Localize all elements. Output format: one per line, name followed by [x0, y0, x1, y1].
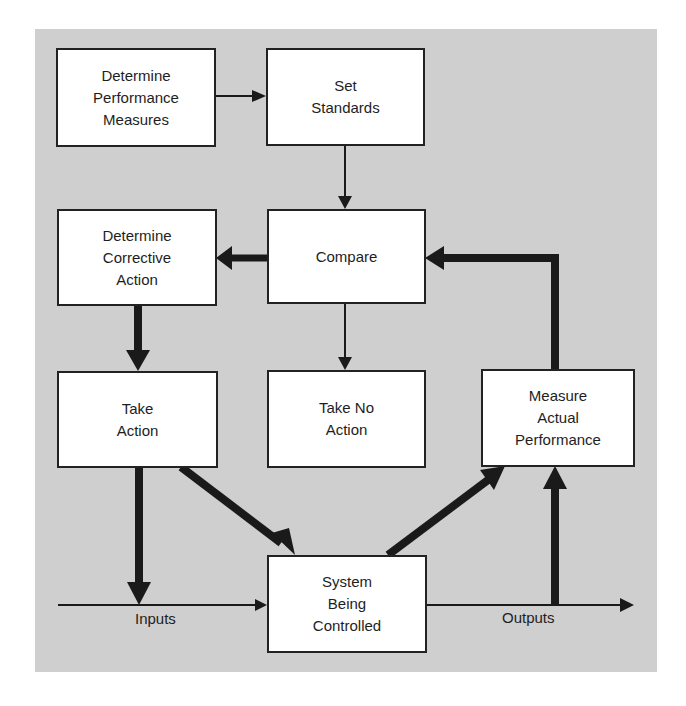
box-take-no-action: Take No Action — [267, 370, 426, 468]
box-set-standards: Set Standards — [266, 48, 425, 146]
arrow-measure-to-compare — [425, 246, 555, 369]
arrow-outputs-to-measure — [543, 466, 567, 605]
box-determine-performance-measures: Determine Performance Measures — [56, 48, 216, 147]
label-outputs: Outputs — [502, 609, 555, 626]
arrow-standards-to-compare — [338, 145, 352, 209]
arrow-system-to-measure — [388, 466, 505, 555]
arrow-measures-to-standards — [215, 90, 266, 102]
arrow-take-action-to-system — [181, 467, 295, 555]
label-inputs: Inputs — [135, 610, 176, 627]
arrow-compare-to-no-action — [338, 303, 352, 370]
box-determine-corrective-action: Determine Corrective Action — [57, 209, 217, 306]
box-compare: Compare — [267, 209, 426, 304]
box-system-being-controlled: System Being Controlled — [267, 555, 427, 653]
box-take-action: Take Action — [57, 371, 218, 468]
arrow-compare-to-corrective — [216, 246, 267, 270]
arrow-corrective-to-take-action — [126, 305, 150, 371]
arrow-take-action-to-inputs — [127, 467, 151, 605]
box-measure-actual-performance: Measure Actual Performance — [481, 369, 635, 467]
